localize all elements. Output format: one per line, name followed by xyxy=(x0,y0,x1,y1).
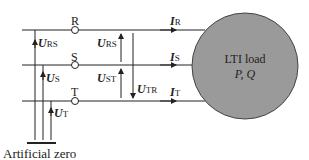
i-r-label: IR xyxy=(170,15,181,27)
artificial-zero-label: Artificial zero xyxy=(3,147,76,160)
node-r-label: R xyxy=(71,15,79,27)
u-s-label: US xyxy=(46,72,60,84)
i-t-label: IT xyxy=(170,86,180,98)
node-s-label: S xyxy=(71,51,78,63)
u-tr-label: UTR xyxy=(137,83,157,95)
u-rs-right-label: URS xyxy=(97,37,117,49)
load-title: LTI load xyxy=(205,52,285,67)
load-params: P, Q xyxy=(205,67,285,82)
lti-load-label: LTI load P, Q xyxy=(205,52,285,82)
i-s-label: IS xyxy=(170,51,180,63)
node-t-label: T xyxy=(71,86,78,98)
u-t-label: UT xyxy=(54,107,68,119)
u-rs-left-label: URS xyxy=(38,37,58,49)
u-st-label: UST xyxy=(97,72,116,84)
